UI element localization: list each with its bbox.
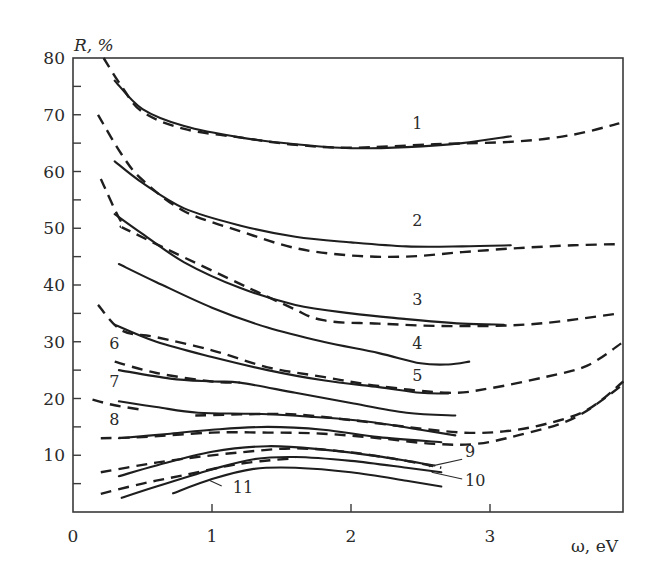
curve-2-dashed: [98, 115, 619, 257]
y-tick-label: 60: [43, 162, 65, 182]
y-tick-label: 30: [43, 332, 65, 352]
leader-line-11: [209, 480, 222, 486]
curve-9-solid: [119, 446, 435, 476]
curve-7-solid: [119, 401, 455, 435]
curve-2-solid: [115, 161, 511, 246]
curve-3-dashed: [101, 179, 620, 326]
y-tick-label: 70: [43, 105, 65, 125]
plot-border: [73, 58, 623, 512]
leader-line-10: [432, 472, 463, 479]
curve-10-solid: [122, 457, 442, 498]
curve-label-7: 7: [109, 372, 119, 391]
curve-label-10: 10: [465, 471, 485, 490]
y-tick-label: 50: [43, 218, 65, 238]
curve-label-2: 2: [412, 211, 422, 230]
curve-label-1: 1: [412, 114, 422, 133]
curve-label-5: 5: [412, 366, 422, 385]
curve-label-11: 11: [233, 478, 253, 497]
curve-1-solid: [115, 81, 511, 149]
curve-label-6: 6: [109, 334, 119, 353]
x-tick-label: 3: [485, 526, 496, 546]
curve-label-4: 4: [412, 334, 422, 353]
plot-frame: [73, 58, 623, 512]
x-tick-label: 2: [346, 526, 357, 546]
curve-8-dashed: [101, 384, 624, 444]
x-tick-label: 1: [207, 526, 218, 546]
curve-11-solid: [173, 467, 441, 493]
x-axis-title: ω, eV: [571, 536, 619, 556]
y-tick-label: 10: [43, 445, 65, 465]
curve-10-dashed: [101, 458, 296, 494]
y-tick-label: 80: [43, 48, 65, 68]
x-tick-label: 0: [68, 526, 79, 546]
curve-label-8: 8: [109, 410, 119, 429]
reflectance-chart: 01231020304050607080 1234567891011 R, % …: [0, 0, 657, 570]
curve-9-dashed: [101, 448, 442, 472]
curve-label-3: 3: [412, 290, 422, 309]
y-tick-label: 40: [43, 275, 65, 295]
curves: [93, 58, 624, 498]
curve-1-dashed: [104, 58, 620, 148]
curve-3-solid: [115, 214, 504, 325]
y-axis-title: R, %: [73, 35, 114, 55]
y-tick-label: 20: [43, 389, 65, 409]
curve-label-9: 9: [465, 442, 475, 461]
leader-line-9: [429, 459, 462, 466]
